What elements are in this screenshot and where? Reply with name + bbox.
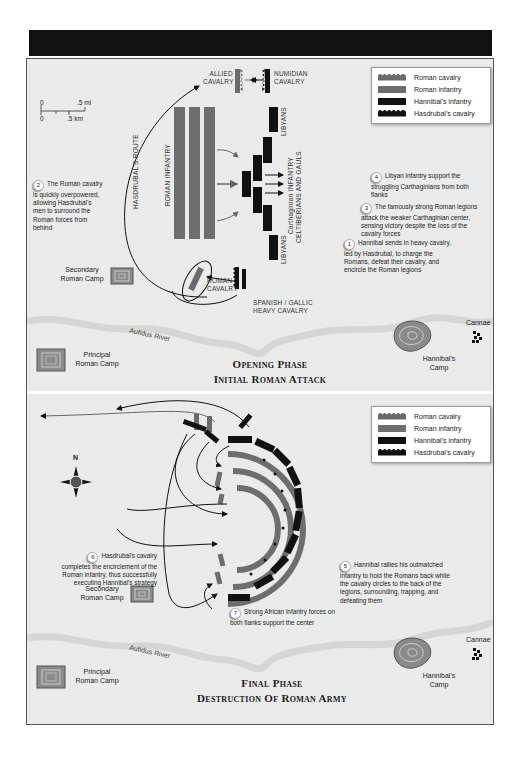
header-bar [29,30,492,56]
note-1: 1Hannibal sends in heavy cavalry, led by… [344,239,454,275]
carthaginian-block [263,137,272,163]
principal-roman-camp-icon [37,349,65,371]
note-7: 7Strong African infantry forces on both … [230,608,340,627]
legend-label: Hannibal's infantry [414,437,471,444]
hasdrubals-route-label: HASDRUBAL'S ROUTE [132,134,139,209]
roman-cavalry-unit [207,416,212,432]
libyans-top-label: LIBYANS [280,107,287,136]
note-3: 3The famously strong Roman legions attac… [361,203,489,239]
roman-cavalry-label: ROMAN CAVALRY [207,277,242,293]
libyans-bottom-block [269,235,278,260]
scale-mi-start: 0 [40,99,44,108]
final-phase-panel: Roman cavalry Roman infantry Hannibal's … [27,394,493,724]
principal-roman-camp-icon [37,666,65,688]
cannae-label: Cannae [466,319,491,328]
hasdrubals-cavalry-swatch-icon [378,449,406,456]
cannae-icon [472,331,482,343]
legend-item-roman-infantry: Roman infantry [378,84,461,94]
note-text: Hannibal sends in heavy cavalry, led by … [344,239,451,273]
note-text: The famously strong Roman legions attack… [361,203,477,237]
step-number-badge: 7 [230,608,241,619]
legend-item-hannibals-infantry: Hannibal's infantry [378,435,471,445]
secondary-camp-label: Secondary Roman Camp [75,585,129,602]
title-line-2: Initial Roman Attack [175,372,365,387]
legend-item-hasdrubals-cavalry: Hasdrubal's cavalry [378,447,475,457]
opening-phase-title: Opening Phase Initial Roman Attack [175,357,365,387]
scale-mi-end: .5 mi [77,99,91,108]
roman-cavalry-swatch-icon [378,74,406,81]
note-2: 2The Roman cavalry is quickly overpowere… [33,180,105,232]
step-number-badge: 3 [361,203,372,214]
hannibals-camp-label: Hannibal's Camp [419,355,459,372]
note-6: 6Hasdrubal's cavalry completes the encir… [57,552,157,588]
secondary-camp-label: Secondary Roman Camp [55,266,109,283]
numidian-cavalry-label: NUMIDIAN CAVALRY [274,70,314,86]
roman-infantry-swatch-icon [378,425,406,432]
legend-opening: Roman cavalry Roman infantry Hannibal's … [371,67,491,124]
roman-infantry-column-1 [174,107,185,239]
compass-north-label: N [73,454,78,463]
libyans-bottom-label: LIBYANS [280,235,287,264]
cannae-icon [472,648,482,660]
legend-label: Roman cavalry [414,74,461,81]
secondary-roman-camp-icon [131,586,153,602]
battle-map: Roman cavalry Roman infantry Hannibal's … [26,58,494,725]
legend-label: Roman infantry [414,425,461,432]
celtiberians-gauls-label: CELTIBERIANS AND GAULS [295,151,302,243]
title-line-2: Destruction Of Roman Army [167,691,377,706]
legend-label: Hannibal's infantry [414,98,471,105]
final-phase-title: Final Phase Destruction Of Roman Army [167,676,377,706]
legend-item-hannibals-infantry: Hannibal's infantry [378,96,471,106]
step-number-badge: 5 [340,561,351,572]
hasdrubals-cavalry-unit [238,414,252,429]
roman-infantry-column-2 [189,107,200,239]
principal-camp-label: Principal Roman Camp [72,351,122,368]
compass-rose-icon [60,466,92,498]
roman-infantry-column-3 [204,107,215,239]
legend-item-roman-infantry: Roman infantry [378,423,461,433]
allied-cavalry-label: ALLIED CAVALRY [203,70,233,86]
legend-label: Roman cavalry [414,413,461,420]
note-text: Hasdrubal's cavalry completes the encirc… [61,552,157,586]
note-text: Libyan infantry support the struggling C… [371,172,469,198]
libyans-top-block [269,107,278,132]
carthaginian-block [253,155,262,181]
carthaginian-block [253,187,262,213]
legend-item-hasdrubals-cavalry: Hasdrubal's cavalry [378,108,475,118]
legend-label: Hasdrubal's cavalry [414,449,475,456]
hannibals-center-top [228,436,252,443]
roman-infantry-label: ROMAN INFANTRY [164,144,171,206]
legend-item-roman-cavalry: Roman cavalry [378,72,461,82]
roman-infantry-arc-inner [237,488,278,570]
step-number-badge: 6 [87,552,98,563]
scale-km-end: .5 km [67,115,83,124]
spanish-gallic-cavalry-label: SPANISH / GALLIC HEAVY CAVALRY [253,299,328,315]
hannibals-camp-icon [394,321,431,351]
note-4: 4Libyan infantry support the struggling … [371,172,486,199]
hannibals-camp-icon [394,638,431,668]
carthaginian-block [263,205,272,231]
title-line-1: Final Phase [167,676,377,691]
hannibals-infantry-swatch-icon [378,437,406,444]
title-line-1: Opening Phase [175,357,365,372]
legend-label: Hasdrubal's cavalry [414,110,475,117]
opening-phase-panel: Roman cavalry Roman infantry Hannibal's … [27,59,493,394]
note-text: Strong African infantry forces on both f… [230,608,335,626]
hasdrubals-cavalry-swatch-icon [378,110,406,117]
step-number-badge: 1 [344,239,355,250]
carthaginian-infantry-label: Carthaginian INFANTRY [287,157,294,234]
hannibals-infantry-swatch-icon [378,98,406,105]
scale-km-start: 0 [40,115,44,124]
hannibals-camp-label: Hannibal's Camp [419,672,459,689]
note-text: Hannibal rallies his outmatched infantry… [340,561,450,604]
roman-cavalry-swatch-icon [378,413,406,420]
step-number-badge: 2 [33,180,44,191]
legend-item-roman-cavalry: Roman cavalry [378,411,461,421]
numidian-cavalry-unit [262,69,270,93]
allied-cavalry-unit [235,69,243,93]
cannae-label: Cannae [466,636,491,645]
legend-final: Roman cavalry Roman infantry Hannibal's … [371,406,491,463]
roman-infantry-swatch-icon [378,86,406,93]
carthaginian-block [242,171,251,197]
legend-label: Roman infantry [414,86,461,93]
